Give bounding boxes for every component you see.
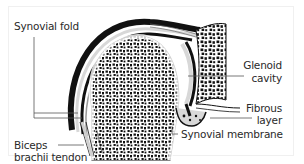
label-biceps-line2: brachii tendon (14, 151, 87, 163)
label-glenoid-line1: Glenoid (243, 59, 282, 71)
label-synovial-membrane: Synovial membrane (181, 128, 283, 140)
label-biceps-line1: Biceps (14, 139, 47, 151)
label-synovial-fold: Synovial fold (14, 20, 79, 32)
glenoid-scapula (182, 23, 240, 112)
synovial-membrane-recess (176, 104, 206, 126)
label-glenoid-line2: cavity (252, 72, 282, 84)
label-fibrous-line2: layer (257, 114, 282, 126)
label-fibrous-line1: Fibrous (246, 102, 282, 114)
shoulder-joint-diagram: Synovial fold Glenoid cavity Fibrous lay… (0, 0, 304, 164)
